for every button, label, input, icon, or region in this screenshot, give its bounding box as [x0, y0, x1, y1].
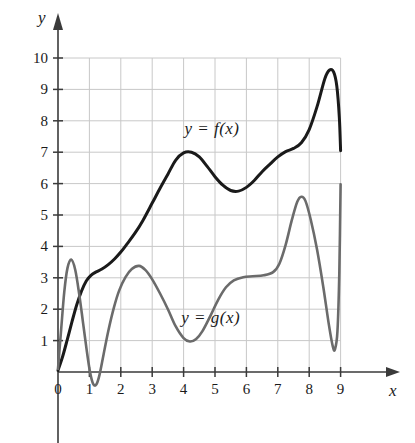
- y-tick-label: 3: [18, 271, 48, 286]
- x-tick-label: 3: [140, 382, 164, 397]
- y-tick-label: 1: [18, 334, 48, 349]
- y-tick-label: 2: [18, 302, 48, 317]
- y-tick-label: 6: [18, 177, 48, 192]
- x-axis-arrowhead: [386, 367, 400, 377]
- y-tick-label: 8: [18, 114, 48, 129]
- plot-canvas: [0, 0, 415, 443]
- curve-annotation-g: y = g(x): [181, 309, 240, 326]
- x-tick-label: 4: [172, 382, 196, 397]
- x-tick-label: 9: [329, 382, 353, 397]
- x-axis-label: x: [389, 382, 397, 399]
- x-tick-label: 0: [46, 382, 70, 397]
- y-axis-arrowhead: [53, 13, 63, 30]
- y-tick-label: 7: [18, 145, 48, 160]
- x-tick-label: 1: [77, 382, 101, 397]
- graph-figure: 012345678912345678910y = f(x)y = g(x) y …: [0, 0, 415, 443]
- data-curves: [58, 69, 341, 385]
- y-tick-label: 4: [18, 239, 48, 254]
- curve-g: [58, 184, 341, 385]
- y-tick-label: 10: [18, 51, 48, 66]
- x-tick-label: 5: [203, 382, 227, 397]
- x-tick-label: 8: [297, 382, 321, 397]
- y-tick-label: 5: [18, 208, 48, 223]
- curve-annotation-f: y = f(x): [184, 120, 239, 137]
- y-axis-label: y: [38, 9, 46, 26]
- axes: [53, 13, 400, 443]
- x-tick-label: 6: [234, 382, 258, 397]
- x-tick-label: 2: [109, 382, 133, 397]
- x-tick-label: 7: [266, 382, 290, 397]
- tick-marks: [53, 58, 341, 377]
- y-tick-label: 9: [18, 82, 48, 97]
